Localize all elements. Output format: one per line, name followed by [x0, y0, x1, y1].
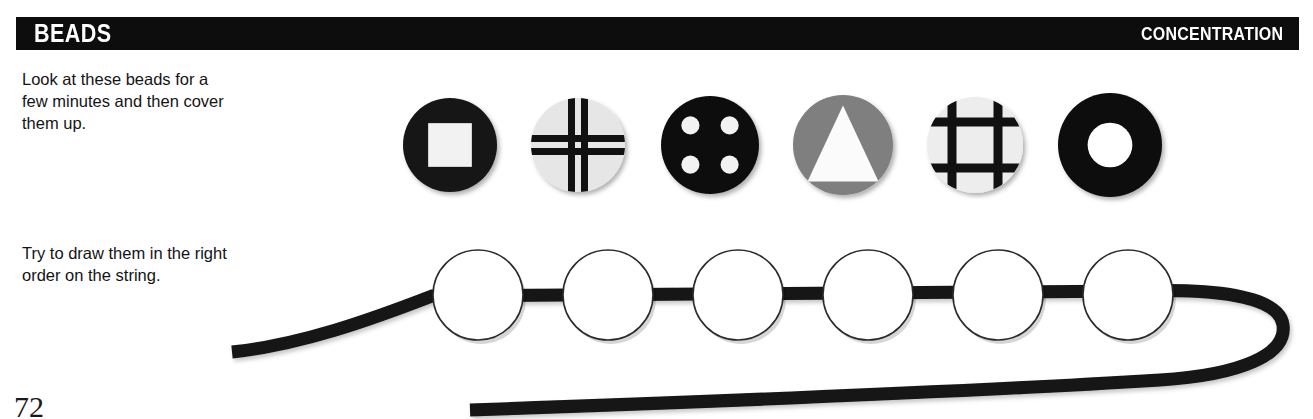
artwork-layer: [0, 0, 1313, 419]
bead-sample-row: [403, 83, 1162, 208]
empty-bead-row: [433, 250, 1176, 344]
bead-light-circle-thin-grid: [519, 86, 637, 204]
empty-bead-slot[interactable]: [953, 250, 1046, 344]
empty-bead-slot[interactable]: [693, 250, 786, 344]
worksheet-page: BEADS CONCENTRATION Look at these beads …: [0, 0, 1313, 419]
instruction-draw: Try to draw them in the right order on t…: [22, 243, 242, 287]
empty-bead-slot[interactable]: [433, 250, 526, 344]
empty-bead-slot[interactable]: [1083, 250, 1176, 344]
bead-light-circle-thick-grid: [913, 83, 1038, 208]
bead-gray-circle-white-triangle: [793, 95, 893, 195]
page-title: BEADS: [34, 21, 111, 46]
empty-bead-slot[interactable]: [823, 250, 916, 344]
string-assembly: [232, 250, 1283, 410]
empty-bead-slot[interactable]: [563, 250, 656, 344]
category-label: CONCENTRATION: [1141, 24, 1283, 43]
bead-black-ring: [1058, 93, 1162, 197]
page-header-banner: BEADS CONCENTRATION: [16, 17, 1299, 50]
page-number: 72: [14, 392, 44, 419]
instruction-look: Look at these beads for a few minutes an…: [22, 69, 237, 135]
bead-black-circle-four-dots: [661, 96, 759, 194]
string-cord: [232, 291, 1283, 410]
bead-black-circle-white-square: [403, 98, 497, 192]
